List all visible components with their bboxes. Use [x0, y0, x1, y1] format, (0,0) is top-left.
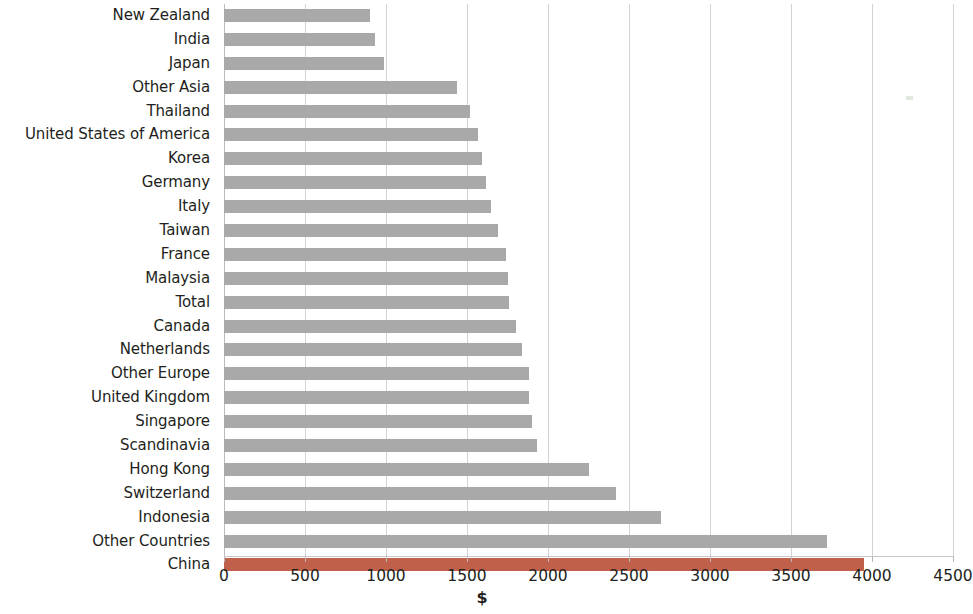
bar [224, 296, 509, 309]
scan-artifact-speck [906, 96, 913, 100]
x-tick-label: 1000 [366, 557, 405, 585]
bar [224, 128, 478, 141]
bar [224, 224, 498, 237]
category-label: United Kingdom [0, 386, 218, 410]
category-label: Canada [0, 315, 218, 339]
category-label: Thailand [0, 100, 218, 124]
category-label: Other Europe [0, 362, 218, 386]
category-label: Total [0, 291, 218, 315]
bar [224, 320, 516, 333]
plot-area [224, 4, 953, 556]
category-label: United States of America [0, 123, 218, 147]
category-label: Scandinavia [0, 434, 218, 458]
bar [224, 367, 529, 380]
bar-row [224, 291, 953, 315]
category-label: Switzerland [0, 482, 218, 506]
category-label: Hong Kong [0, 458, 218, 482]
category-label: Indonesia [0, 506, 218, 530]
x-tick-label: 2500 [609, 557, 648, 585]
category-axis-labels: New ZealandIndiaJapanOther AsiaThailandU… [0, 4, 218, 577]
category-label: Other Countries [0, 530, 218, 554]
bar-row [224, 530, 953, 554]
bar-row [224, 315, 953, 339]
bar [224, 81, 457, 94]
category-label: Netherlands [0, 338, 218, 362]
bar-row [224, 147, 953, 171]
x-tick-label: 0 [219, 557, 229, 585]
bar-row [224, 52, 953, 76]
x-axis-title: $ [0, 588, 964, 607]
category-label: Germany [0, 171, 218, 195]
bar-row [224, 195, 953, 219]
category-label: Other Asia [0, 76, 218, 100]
bar-row [224, 219, 953, 243]
category-label: Japan [0, 52, 218, 76]
x-tick-label: 4000 [852, 557, 891, 585]
bar [224, 511, 661, 524]
bar [224, 487, 616, 500]
x-tick-label: 2000 [528, 557, 567, 585]
bar [224, 176, 486, 189]
bar-row [224, 458, 953, 482]
bar [224, 391, 529, 404]
x-axis-ticks: 050010001500200025003000350040004500 [224, 557, 954, 587]
category-label: Taiwan [0, 219, 218, 243]
bar [224, 105, 470, 118]
bar-series [224, 4, 953, 556]
bar [224, 33, 375, 46]
bar-row [224, 100, 953, 124]
bar [224, 463, 589, 476]
x-tick-label: 3500 [771, 557, 810, 585]
bar-row [224, 28, 953, 52]
bar-row [224, 410, 953, 434]
bar [224, 439, 537, 452]
bar-row [224, 362, 953, 386]
bar-row [224, 76, 953, 100]
x-tick-label: 4500 [933, 557, 972, 585]
bar-row [224, 338, 953, 362]
gridline [953, 4, 954, 556]
category-label: China [0, 553, 218, 577]
bar [224, 57, 384, 70]
bar [224, 343, 522, 356]
category-label: Malaysia [0, 267, 218, 291]
x-tick-label: 1500 [447, 557, 486, 585]
category-label: India [0, 28, 218, 52]
bar-row [224, 506, 953, 530]
x-tick-label: 500 [290, 557, 320, 585]
category-label: New Zealand [0, 4, 218, 28]
bar [224, 152, 482, 165]
bar-row [224, 482, 953, 506]
x-tick-label: 3000 [690, 557, 729, 585]
bar [224, 272, 508, 285]
bar [224, 200, 491, 213]
bar-row [224, 171, 953, 195]
bar [224, 415, 532, 428]
bar-row [224, 267, 953, 291]
category-label: Italy [0, 195, 218, 219]
bar [224, 535, 827, 548]
category-label: Singapore [0, 410, 218, 434]
bar-row [224, 4, 953, 28]
bar-row [224, 123, 953, 147]
category-label: France [0, 243, 218, 267]
bar-row [224, 243, 953, 267]
bar [224, 9, 370, 22]
bar-row [224, 434, 953, 458]
category-label: Korea [0, 147, 218, 171]
bar-row [224, 386, 953, 410]
bar [224, 248, 506, 261]
